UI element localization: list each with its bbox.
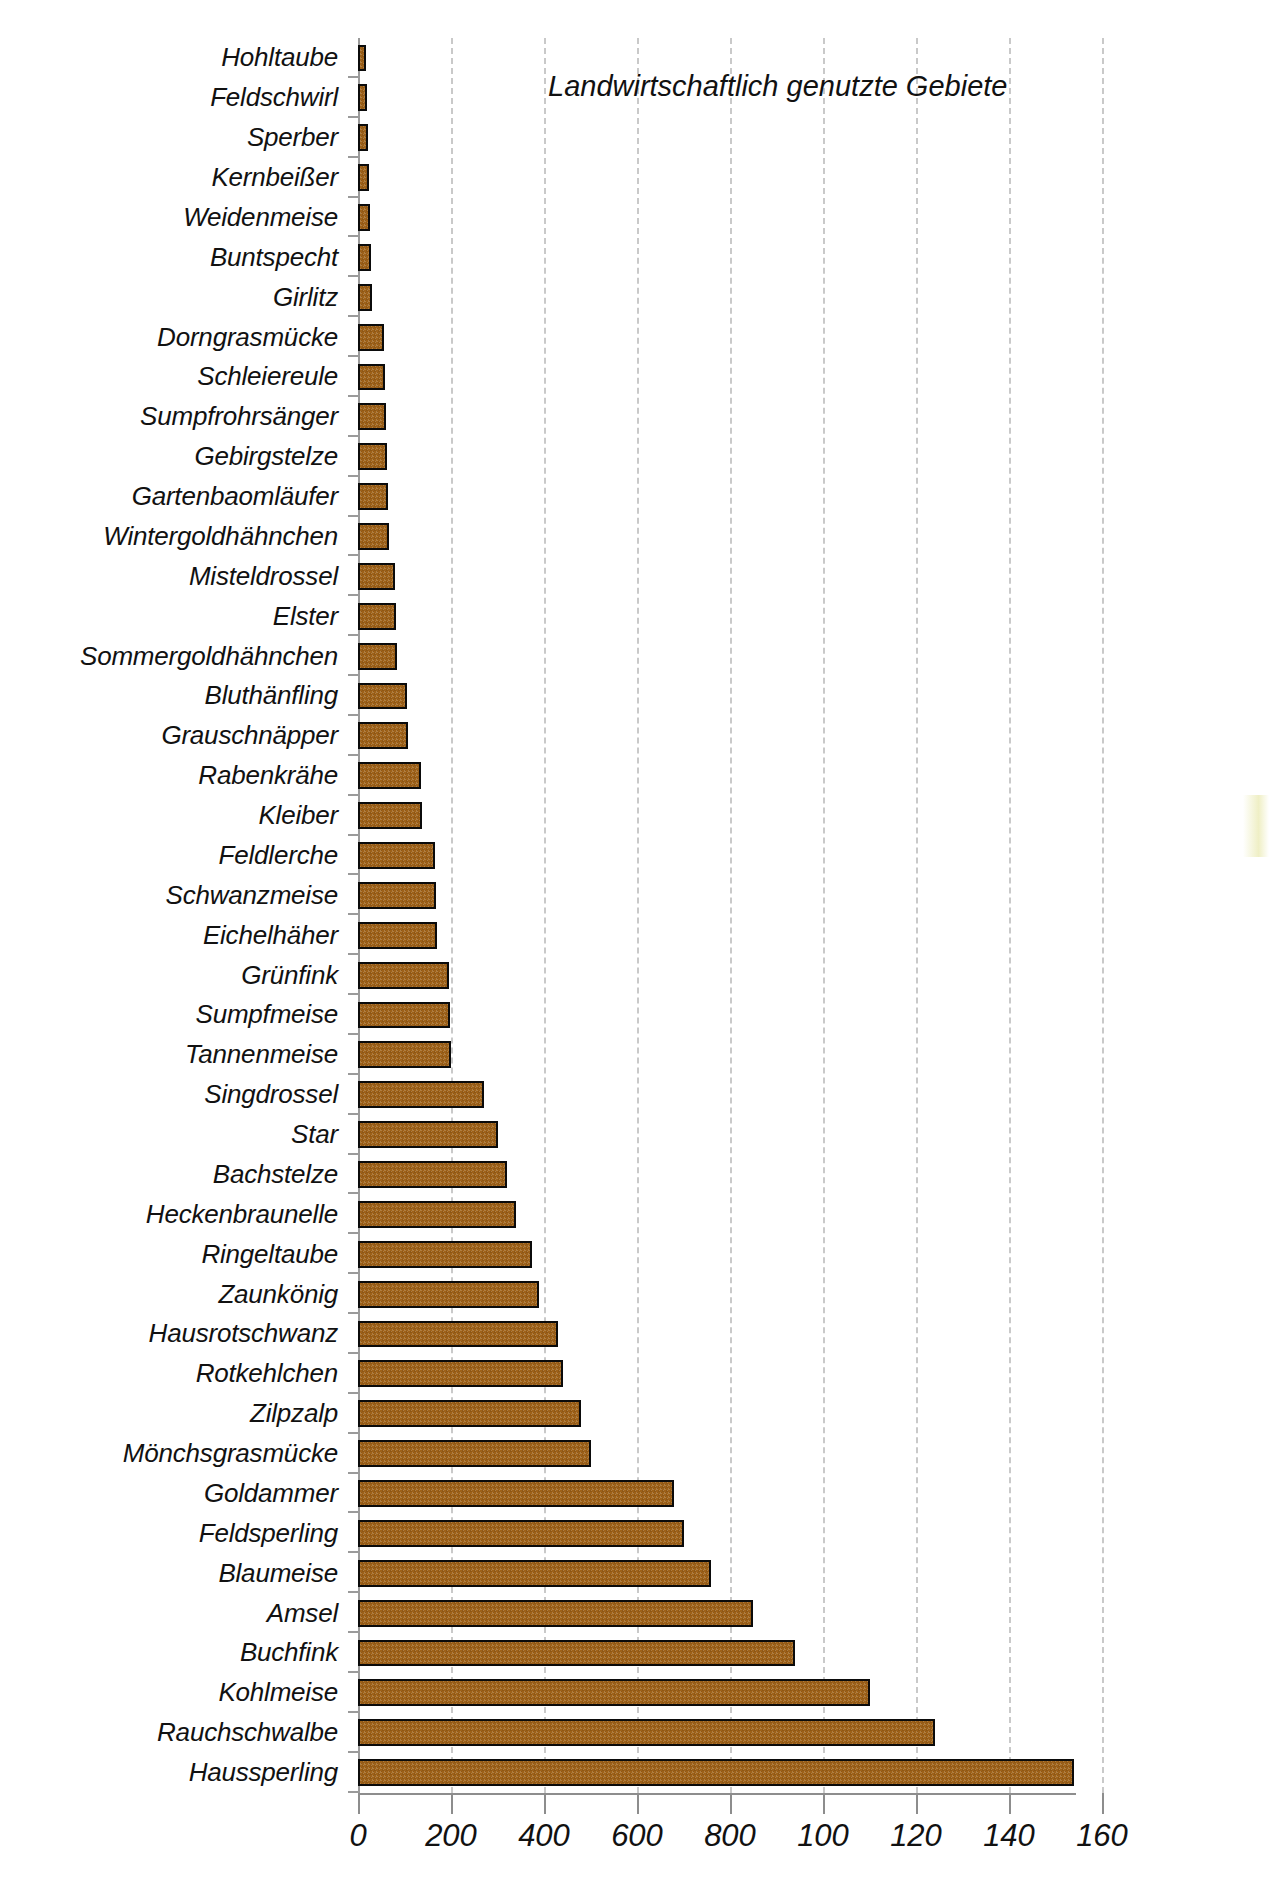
bar (358, 1241, 532, 1268)
bar-row (358, 118, 1118, 158)
bar-row (358, 1234, 1118, 1274)
y-axis-ticks (348, 38, 360, 1793)
bar-row (358, 915, 1118, 955)
y-axis-tick (348, 596, 360, 636)
bar-row (358, 836, 1118, 876)
x-axis-tick-label: 800 (704, 1818, 756, 1854)
bar-row (358, 1035, 1118, 1075)
y-axis-tick (348, 875, 360, 915)
y-axis-label: Dorngrasmücke (0, 317, 348, 357)
bar-row (358, 716, 1118, 756)
y-axis-tick (348, 1593, 360, 1633)
y-axis-label: Gartenbaomläufer (0, 477, 348, 517)
bar (358, 683, 407, 710)
bar (358, 1002, 450, 1029)
y-axis-tick (348, 955, 360, 995)
y-axis-tick (348, 1314, 360, 1354)
bar (358, 1281, 539, 1308)
y-axis-label: Girlitz (0, 277, 348, 317)
x-axis-tick-label: 600 (611, 1818, 663, 1854)
y-axis-label: Rauchschwalbe (0, 1713, 348, 1753)
edge-artifact (1243, 795, 1269, 857)
bar-row (358, 1354, 1118, 1394)
bar (358, 1321, 558, 1348)
bar (358, 1679, 870, 1706)
y-axis-label: Zilpzalp (0, 1394, 348, 1434)
bar (358, 1719, 935, 1746)
y-axis-tick (348, 517, 360, 557)
y-axis-label: Kohlmeise (0, 1673, 348, 1713)
x-axis-tick-label: 160 (1076, 1818, 1128, 1854)
bar (358, 324, 384, 351)
bar-row (358, 995, 1118, 1035)
y-axis-tick (348, 796, 360, 836)
bar-row (358, 1194, 1118, 1234)
bar (358, 762, 421, 789)
x-axis-tick (358, 1793, 360, 1814)
y-axis-label: Sommergoldhähnchen (0, 636, 348, 676)
y-axis-tick (348, 915, 360, 955)
y-axis-tick (348, 1354, 360, 1394)
y-axis-label: Feldschwirl (0, 78, 348, 118)
bar (358, 882, 436, 909)
y-axis-tick (348, 1713, 360, 1753)
bar-row (358, 636, 1118, 676)
y-axis-tick (348, 1394, 360, 1434)
bar (358, 1360, 563, 1387)
bar-row (358, 796, 1118, 836)
y-axis-label: Eichelhäher (0, 915, 348, 955)
bar (358, 603, 396, 630)
bar-row (358, 237, 1118, 277)
bar-row (358, 676, 1118, 716)
bar-chart: HohltaubeFeldschwirlSperberKernbeißerWei… (0, 0, 1269, 1879)
x-axis-tick-label: 140 (983, 1818, 1035, 1854)
y-axis-tick (348, 1234, 360, 1274)
x-axis-tick-label: 100 (797, 1818, 849, 1854)
bar-row (358, 596, 1118, 636)
x-axis-tick (637, 1793, 639, 1814)
y-axis-label: Feldlerche (0, 836, 348, 876)
y-axis-labels: HohltaubeFeldschwirlSperberKernbeißerWei… (0, 38, 348, 1793)
y-axis-tick (348, 1553, 360, 1593)
y-axis-label: Rabenkrähe (0, 756, 348, 796)
bar-row (358, 1075, 1118, 1115)
y-axis-tick (348, 477, 360, 517)
y-axis-label: Schwanzmeise (0, 875, 348, 915)
bar-row (358, 517, 1118, 557)
y-axis-tick (348, 1274, 360, 1314)
y-axis-tick (348, 636, 360, 676)
y-axis-label: Wintergoldhähnchen (0, 517, 348, 557)
x-axis-tick (730, 1793, 732, 1814)
bar-row (358, 1394, 1118, 1434)
bar (358, 1759, 1074, 1786)
y-axis-tick (348, 1474, 360, 1514)
x-axis-tick (916, 1793, 918, 1814)
bar-row (358, 1513, 1118, 1553)
y-axis-tick (348, 1075, 360, 1115)
bar-row (358, 1673, 1118, 1713)
x-axis-tick-label: 400 (518, 1818, 570, 1854)
y-axis-label: Star (0, 1115, 348, 1155)
y-axis-label: Singdrossel (0, 1075, 348, 1115)
y-axis-label: Hausrotschwanz (0, 1314, 348, 1354)
bar-row (358, 1474, 1118, 1514)
bar-row (358, 1713, 1118, 1753)
y-axis-label: Kleiber (0, 796, 348, 836)
bar-row (358, 556, 1118, 596)
y-axis-label: Kernbeißer (0, 158, 348, 198)
bar (358, 563, 395, 590)
y-axis-label: Misteldrossel (0, 556, 348, 596)
y-axis-label: Sperber (0, 118, 348, 158)
bar-row (358, 1434, 1118, 1474)
bar (358, 1440, 591, 1467)
y-axis-label: Weidenmeise (0, 198, 348, 238)
y-axis-tick (348, 118, 360, 158)
y-axis-label: Amsel (0, 1593, 348, 1633)
bar (358, 922, 437, 949)
bar (358, 364, 385, 391)
y-axis-tick (348, 556, 360, 596)
y-axis-label: Schleiereule (0, 357, 348, 397)
bar-row (358, 1593, 1118, 1633)
bar (358, 1520, 684, 1547)
y-axis-tick (348, 78, 360, 118)
